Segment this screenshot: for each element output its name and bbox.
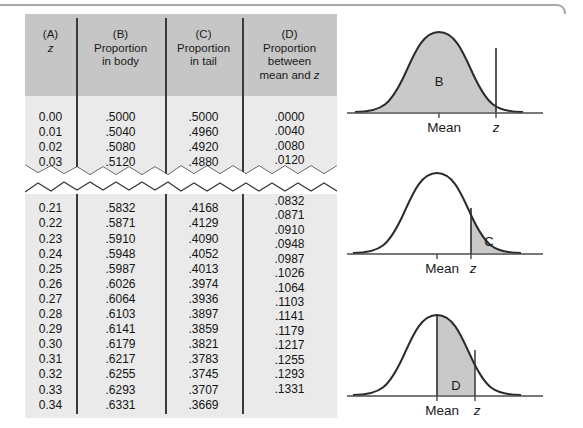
table-cell: .1331 [242, 382, 337, 396]
value-group-top: .5000.5040.5080.5120 [76, 110, 165, 170]
region-label-c: C [484, 234, 493, 249]
shaded-region-tail [353, 173, 521, 253]
break-spacer [76, 170, 165, 201]
table-cell: 0.23 [25, 232, 76, 247]
table-cell: .6141 [76, 322, 165, 337]
table-cell: .4880 [165, 155, 242, 170]
table-cell: .4168 [165, 201, 242, 216]
column-header-line: in body [76, 55, 165, 69]
table-cell: .1293 [242, 367, 337, 381]
column-header-line: between [242, 55, 337, 69]
column-values-d: .0000.0040.0080.0120.0832.0871.0910.0948… [242, 110, 337, 396]
table-cell: 0.31 [25, 352, 76, 367]
table-cell: .3707 [165, 383, 242, 398]
table-cell: .1064 [242, 281, 337, 295]
table-cell: .5000 [165, 110, 242, 125]
table-cell: .5910 [76, 232, 165, 247]
table-cell: 0.26 [25, 277, 76, 292]
table-cell: .4920 [165, 140, 242, 155]
table-cell: .3974 [165, 277, 242, 292]
break-spacer [242, 168, 337, 194]
table-cell: .6179 [76, 337, 165, 352]
column-values-c: .5000.4960.4920.4880.4168.4129.4090.4052… [165, 110, 242, 413]
table-cell: .0948 [242, 237, 337, 251]
column-tag: (A) [25, 28, 76, 42]
value-group-bottom: 0.210.220.230.240.250.260.270.280.290.30… [25, 201, 76, 412]
table-cell: .0120 [242, 153, 337, 167]
table-cell: .3783 [165, 352, 242, 367]
value-group-bottom: .0832.0871.0910.0948.0987.1026.1064.1103… [242, 194, 337, 396]
table-cell: .4090 [165, 232, 242, 247]
column-header-line: z [25, 42, 76, 56]
table-cell: .1217 [242, 338, 337, 352]
table-cell: 0.25 [25, 262, 76, 277]
column-values-b: .5000.5040.5080.5120.5832.5871.5910.5948… [76, 110, 165, 413]
table-cell: .6103 [76, 307, 165, 322]
table-cell: .4129 [165, 216, 242, 231]
table-cell: .5948 [76, 247, 165, 262]
value-group-top: 0.000.010.020.03 [25, 110, 76, 170]
table-cell: 0.33 [25, 383, 76, 398]
table-cell: 0.34 [25, 398, 76, 413]
normal-curve-figure-b: B Mean z [343, 8, 575, 138]
region-label-b: B [435, 74, 444, 89]
table-cell: .1103 [242, 295, 337, 309]
mean-label-c: Mean [425, 261, 459, 276]
column-header-d: (D)Proportionbetweenmean and z [242, 28, 337, 82]
unit-normal-table: (A)z (B)Proportionin body (C)Proportioni… [25, 14, 337, 418]
table-cell: 0.00 [25, 110, 76, 125]
table-cell: .1179 [242, 324, 337, 338]
column-header-line: Proportion [76, 42, 165, 56]
table-cell: 0.24 [25, 247, 76, 262]
table-cell: .6293 [76, 383, 165, 398]
table-cell: .6217 [76, 352, 165, 367]
table-cell: .5120 [76, 155, 165, 170]
column-header-line: in tail [165, 55, 242, 69]
normal-curve-figure-c: C Mean z [343, 146, 575, 276]
z-label-b: z [492, 120, 500, 135]
table-cell: .3669 [165, 398, 242, 413]
table-cell: .0910 [242, 223, 337, 237]
table-cell: .0832 [242, 194, 337, 208]
table-cell: .4052 [165, 247, 242, 262]
table-cell: .6331 [76, 398, 165, 413]
table-cell: .3745 [165, 367, 242, 382]
table-cell: .5987 [76, 262, 165, 277]
column-header-line: mean and z [242, 69, 337, 83]
table-cell: 0.03 [25, 155, 76, 170]
table-cell: .1026 [242, 266, 337, 280]
table-cell: .5000 [76, 110, 165, 125]
table-cell: .4960 [165, 125, 242, 140]
table-cell: .3859 [165, 322, 242, 337]
table-cell: 0.30 [25, 337, 76, 352]
break-spacer [25, 170, 76, 201]
mean-label-d: Mean [425, 403, 459, 418]
table-cell: .3936 [165, 292, 242, 307]
column-header-line: Proportion [165, 42, 242, 56]
table-cell: .6255 [76, 367, 165, 382]
value-group-top: .5000.4960.4920.4880 [165, 110, 242, 170]
curve-outline [353, 173, 521, 253]
table-cell: .6026 [76, 277, 165, 292]
column-header-b: (B)Proportionin body [76, 28, 165, 69]
column-values-a: 0.000.010.020.030.210.220.230.240.250.26… [25, 110, 76, 413]
table-cell: .4013 [165, 262, 242, 277]
table-cell: .5040 [76, 125, 165, 140]
value-group-bottom: .5832.5871.5910.5948.5987.6026.6064.6103… [76, 201, 165, 412]
value-group-bottom: .4168.4129.4090.4052.4013.3974.3936.3897… [165, 201, 242, 412]
mean-label-b: Mean [427, 120, 461, 135]
table-cell: .5832 [76, 201, 165, 216]
shaded-region-body [355, 32, 523, 112]
table-cell: .1255 [242, 353, 337, 367]
table-cell: 0.21 [25, 201, 76, 216]
table-cell: 0.32 [25, 367, 76, 382]
column-header-a: (A)z [25, 28, 76, 55]
z-label-c: z [469, 261, 477, 276]
column-tag: (C) [165, 28, 242, 42]
table-cell: .0871 [242, 208, 337, 222]
table-cell: .0080 [242, 139, 337, 153]
table-cell: 0.29 [25, 322, 76, 337]
table-cell: .0040 [242, 124, 337, 138]
column-tag: (B) [76, 28, 165, 42]
table-cell: .3897 [165, 307, 242, 322]
